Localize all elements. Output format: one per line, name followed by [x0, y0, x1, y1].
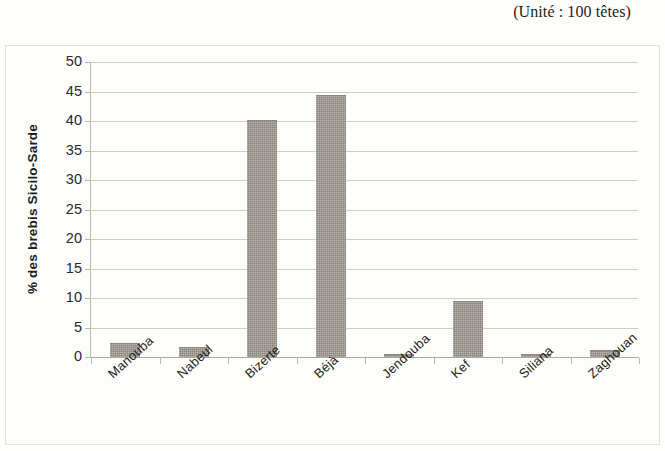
x-tick-mark: [228, 358, 229, 364]
bar-slot: [502, 62, 571, 357]
x-tick-mark: [639, 358, 640, 364]
bar[interactable]: [316, 95, 346, 357]
y-axis-tick-labels: 50454035302520151050: [46, 62, 82, 357]
bar-slot: [91, 62, 160, 357]
x-axis-tick-marks: [91, 358, 639, 365]
y-tick-mark-10: [85, 298, 91, 299]
y-tick-mark-50: [85, 62, 91, 63]
x-tick-mark: [160, 358, 161, 364]
y-tick-mark-35: [85, 151, 91, 152]
y-tick-mark-5: [85, 328, 91, 329]
x-tick-mark: [434, 358, 435, 364]
y-tick-label-10: 10: [48, 289, 82, 305]
y-tick-label-35: 35: [48, 142, 82, 158]
y-tick-label-30: 30: [48, 171, 82, 187]
y-tick-label-20: 20: [48, 230, 82, 246]
y-tick-label-0: 0: [48, 348, 82, 364]
y-tick-mark-20: [85, 239, 91, 240]
x-tick-mark: [91, 358, 92, 364]
bar-slot: [365, 62, 434, 357]
y-tick-label-5: 5: [48, 319, 82, 335]
y-tick-label-25: 25: [48, 201, 82, 217]
x-tick-mark: [502, 358, 503, 364]
bar-slot: [571, 62, 640, 357]
bar-slot: [434, 62, 503, 357]
bar[interactable]: [453, 301, 483, 357]
y-tick-mark-0: [85, 357, 91, 358]
y-tick-label-40: 40: [48, 112, 82, 128]
bar-slot: [160, 62, 229, 357]
y-tick-mark-15: [85, 269, 91, 270]
x-axis-category-labels: ManoubaNabeulBizerteBéjàJendoubaKefSilia…: [91, 366, 639, 444]
y-tick-mark-25: [85, 210, 91, 211]
y-tick-mark-45: [85, 92, 91, 93]
bar-slot: [228, 62, 297, 357]
y-axis-title: % des brebis Sicilo-Sarde: [25, 124, 40, 294]
bars-layer: [91, 62, 639, 357]
y-tick-mark-30: [85, 180, 91, 181]
bar[interactable]: [247, 120, 277, 357]
y-tick-label-50: 50: [48, 53, 82, 69]
bar-slot: [297, 62, 366, 357]
x-tick-mark: [571, 358, 572, 364]
y-tick-label-15: 15: [48, 260, 82, 276]
x-tick-mark: [297, 358, 298, 364]
chart-frame: % des brebis Sicilo-Sarde 50454035302520…: [5, 45, 660, 445]
caption-row: (Unité : 100 têtes): [0, 0, 665, 40]
x-tick-mark: [365, 358, 366, 364]
y-tick-mark-40: [85, 121, 91, 122]
y-tick-label-45: 45: [48, 83, 82, 99]
unit-caption: (Unité : 100 têtes): [513, 3, 631, 21]
